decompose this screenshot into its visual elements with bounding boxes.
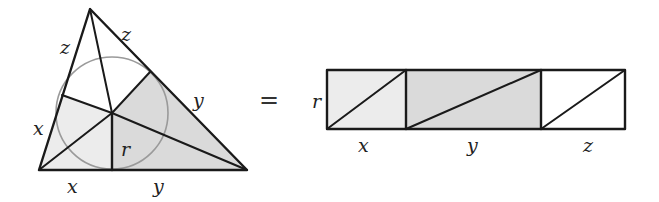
rectangle-figure: r x y z	[312, 70, 625, 156]
label-x-base: x	[67, 175, 78, 197]
incircle-area-diagram: z z x y x y r = r x y z	[0, 0, 659, 202]
rect-label-y: y	[466, 134, 478, 156]
label-z-left: z	[59, 36, 71, 58]
rect-label-z: z	[582, 134, 594, 156]
rect-label-x: x	[358, 134, 369, 156]
triangle-figure: z z x y x y r	[33, 9, 247, 197]
label-z-right: z	[120, 23, 132, 45]
label-y-right: y	[192, 89, 204, 111]
rect-label-r: r	[312, 90, 323, 112]
label-y-base: y	[152, 175, 164, 197]
label-x-left: x	[33, 117, 44, 139]
equals-sign: =	[259, 86, 279, 114]
